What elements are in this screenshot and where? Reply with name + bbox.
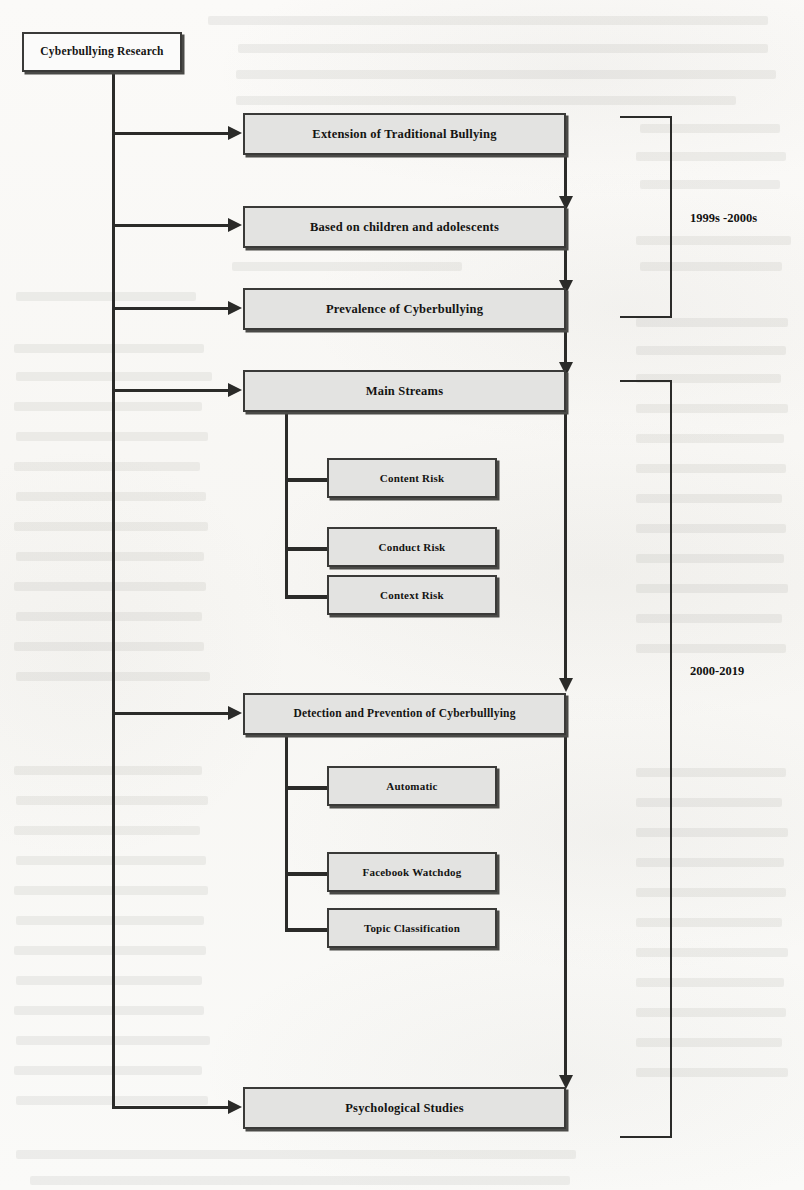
bracket-early-bottom-arm — [620, 316, 672, 318]
node-topic-classification[interactable]: Topic Classification — [327, 908, 497, 948]
diagram-canvas: 1999s -2000s 2000-2019 Cyberbullying Res… — [0, 0, 804, 1190]
arrowhead-to-psych — [228, 1100, 242, 1114]
connector-mainstreams-to-context — [285, 595, 327, 599]
node-label: Content Risk — [380, 473, 444, 484]
node-label: Extension of Traditional Bullying — [312, 128, 496, 141]
era-label-early: 1999s -2000s — [690, 211, 757, 226]
connector-detection-substem — [285, 735, 288, 931]
node-extension-of-traditional-bullying[interactable]: Extension of Traditional Bullying — [243, 113, 566, 155]
bracket-early-spine — [670, 116, 672, 318]
arrowhead-mainstreams-to-detection — [559, 678, 573, 692]
node-prevalence-of-cyberbullying[interactable]: Prevalence of Cyberbullying — [243, 288, 566, 330]
connector-detection-to-psych — [564, 735, 567, 1081]
node-label: Context Risk — [380, 590, 444, 601]
flowchart-page: 1999s -2000s 2000-2019 Cyberbullying Res… — [0, 0, 804, 1190]
node-label: Based on children and adolescents — [310, 221, 499, 234]
arrowhead-to-mainstreams — [228, 383, 242, 397]
node-label: Psychological Studies — [345, 1102, 463, 1115]
connector-detection-to-topic — [285, 928, 327, 932]
arrowhead-to-prevalence — [228, 301, 242, 315]
node-label: Main Streams — [366, 385, 444, 398]
bracket-late-bottom-arm — [620, 1136, 672, 1138]
node-facebook-watchdog[interactable]: Facebook Watchdog — [327, 852, 497, 892]
bracket-early-top-arm — [620, 116, 672, 118]
node-psychological-studies[interactable]: Psychological Studies — [243, 1087, 566, 1129]
node-label: Topic Classification — [364, 923, 460, 934]
node-label: Cyberbullying Research — [40, 46, 163, 58]
node-detection-and-prevention-of-cyberbullying[interactable]: Detection and Prevention of Cyberbulllyi… — [243, 693, 566, 735]
connector-root-to-detection — [112, 712, 232, 715]
node-content-risk[interactable]: Content Risk — [327, 458, 497, 498]
node-label: Prevalence of Cyberbullying — [326, 303, 483, 316]
connector-root-to-mainstreams — [112, 389, 232, 392]
connector-main-spine — [112, 72, 115, 1108]
node-main-streams[interactable]: Main Streams — [243, 370, 566, 412]
node-conduct-risk[interactable]: Conduct Risk — [327, 527, 497, 567]
connector-root-to-extension — [112, 132, 232, 135]
arrowhead-to-extension — [228, 126, 242, 140]
connector-detection-to-facebook — [285, 872, 327, 876]
connector-mainstreams-substem — [285, 412, 288, 598]
node-based-on-children-and-adolescents[interactable]: Based on children and adolescents — [243, 206, 566, 248]
node-context-risk[interactable]: Context Risk — [327, 575, 497, 615]
node-label: Automatic — [386, 781, 437, 792]
connector-root-to-psych — [112, 1106, 232, 1109]
node-label: Detection and Prevention of Cyberbulllyi… — [293, 708, 515, 720]
connector-mainstreams-to-conduct — [285, 547, 327, 551]
connector-detection-to-automatic — [285, 786, 327, 790]
connector-root-to-prevalence — [112, 307, 232, 310]
bracket-late-top-arm — [620, 380, 672, 382]
node-label: Conduct Risk — [379, 542, 446, 553]
bracket-late-spine — [670, 380, 672, 1138]
arrowhead-to-based — [228, 218, 242, 232]
connector-mainstreams-to-content — [285, 478, 327, 482]
node-label: Facebook Watchdog — [363, 867, 462, 878]
arrowhead-to-detection — [228, 706, 242, 720]
connector-extension-to-based — [564, 155, 567, 200]
connector-root-to-based — [112, 224, 232, 227]
node-cyberbullying-research[interactable]: Cyberbullying Research — [22, 32, 182, 72]
connector-mainstreams-to-detection — [564, 412, 567, 684]
era-label-late: 2000-2019 — [690, 664, 744, 679]
node-automatic[interactable]: Automatic — [327, 766, 497, 806]
